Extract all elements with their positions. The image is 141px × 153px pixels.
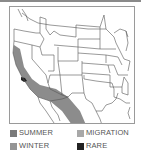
legend-item-summer: SUMMER (10, 128, 53, 138)
rare-swatch-icon (77, 143, 84, 150)
winter-swatch-icon (10, 143, 17, 150)
range-map (9, 6, 135, 124)
legend-label: WINTER (19, 141, 49, 151)
legend-label: MIGRATION (86, 128, 129, 138)
range-area (13, 45, 86, 124)
summer-swatch-icon (10, 130, 17, 137)
us-states-map (10, 7, 135, 124)
legend-item-winter: WINTER (10, 141, 49, 151)
legend-label: SUMMER (19, 128, 53, 138)
legend: SUMMER MIGRATION WINTER RARE (10, 128, 140, 152)
legend-item-migration: MIGRATION (77, 128, 129, 138)
legend-label: RARE (86, 141, 107, 151)
migration-swatch-icon (77, 130, 84, 137)
top-divider (0, 0, 141, 2)
legend-item-rare: RARE (77, 141, 107, 151)
